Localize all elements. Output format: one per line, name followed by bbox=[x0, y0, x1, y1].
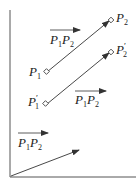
label-p1: P1 bbox=[28, 64, 41, 81]
svg-text:P1P2: P1P2 bbox=[74, 92, 99, 109]
label-vec-top: P1P2 bbox=[49, 30, 80, 49]
label-vec-bottom: P1P2 bbox=[17, 133, 48, 152]
svg-text:P1P2: P1P2 bbox=[17, 135, 42, 152]
svg-text:P1P2: P1P2 bbox=[49, 32, 74, 49]
point-p1-marker bbox=[44, 69, 50, 75]
point-p2-marker bbox=[108, 17, 114, 23]
label-p1-prime: P′1 bbox=[27, 93, 39, 111]
vector-origin bbox=[11, 150, 79, 176]
label-p2-prime: P′2 bbox=[115, 41, 127, 59]
label-vec-middle: P1P2 bbox=[74, 91, 106, 109]
label-p2: P2 bbox=[115, 10, 128, 27]
point-p2prime-marker bbox=[108, 49, 114, 55]
point-p1prime-marker bbox=[43, 101, 49, 107]
vector-diagram: P1 P2 P′1 P′2 P1P2 P1P2 P1P2 bbox=[0, 0, 139, 183]
